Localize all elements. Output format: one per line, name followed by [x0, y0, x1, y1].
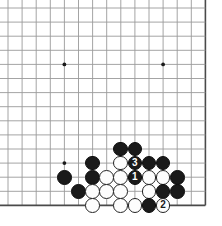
white-stone: [128, 198, 143, 213]
white-stone: [142, 184, 157, 199]
white-stone: [85, 198, 100, 213]
white-stone: [113, 170, 128, 185]
stone-move-number: 1: [129, 171, 142, 184]
white-stone: [113, 156, 128, 171]
black-stone: [142, 198, 157, 213]
black-stone: [170, 170, 185, 185]
stone-layer: 312: [0, 0, 222, 226]
black-stone: [57, 170, 72, 185]
white-stone: [99, 170, 114, 185]
white-stone: [113, 198, 128, 213]
black-stone: [156, 156, 171, 171]
white-stone: [99, 184, 114, 199]
black-stone: [85, 156, 100, 171]
white-stone: [142, 170, 157, 185]
black-stone: [85, 170, 100, 185]
white-stone: [85, 184, 100, 199]
stone-move-2: 2: [156, 198, 171, 213]
black-stone: [128, 142, 143, 157]
stone-move-number: 3: [129, 157, 142, 170]
white-stone: [113, 184, 128, 199]
black-stone: [71, 184, 86, 199]
black-stone: [142, 156, 157, 171]
go-board-diagram: 312: [0, 0, 222, 226]
stone-move-1: 1: [128, 170, 143, 185]
black-stone: [170, 184, 185, 199]
white-stone: [156, 170, 171, 185]
black-stone: [113, 142, 128, 157]
stone-move-3: 3: [128, 156, 143, 171]
stone-move-number: 2: [157, 199, 170, 212]
black-stone: [156, 184, 171, 199]
